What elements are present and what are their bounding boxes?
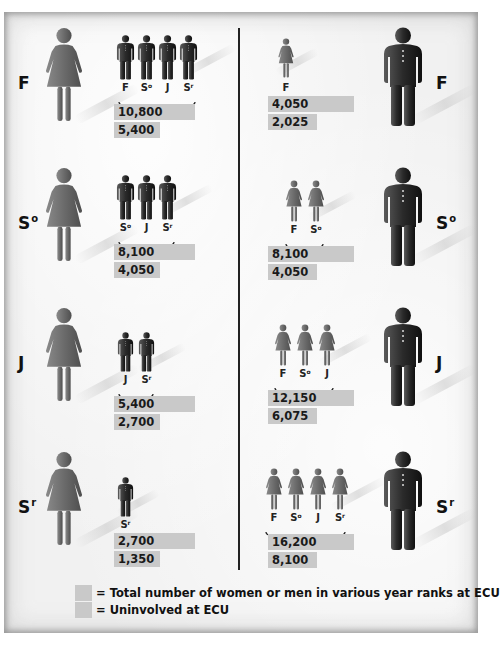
uninvolved-bar-right-3: 8,100 [268,552,317,568]
rank-label-right-3: Sr [436,499,454,516]
figure-group-right-0 [278,36,294,84]
uninvolved-bar-left-2: 2,700 [114,414,160,430]
legend-swatch-uninvolved [75,602,92,618]
man-icon-small [179,35,198,84]
uninvolved-bar-right-1: 4,050 [268,264,317,280]
rank-tag-letter: S [183,82,190,93]
rank-tag-letter: F [283,82,290,93]
rank-tag: Sr [116,519,135,530]
rank-letter: S [436,497,448,517]
rank-tag-letter: S [120,519,127,530]
total-bar-right-2: 12,150 [268,390,354,406]
figure-labels-left-3: Sr [116,519,135,530]
man-icon-small [137,175,156,224]
figure-labels-right-2: FSoJ [272,368,338,379]
figure-group-right-3 [263,468,351,514]
figure-labels-right-1: FSo [283,224,327,235]
figure-group-left-2 [116,332,156,376]
rank-tag-superscript: r [149,374,152,381]
rank-tag: Sr [179,82,198,93]
rank-tag: So [116,222,135,233]
woman-icon-small [305,180,327,226]
rank-superscript: r [31,497,36,508]
rank-tag: F [272,368,294,379]
rank-tag-superscript: r [342,512,345,519]
rank-superscript: r [449,497,454,508]
woman-icon-small [316,324,338,370]
woman-icon-small [285,468,307,514]
man-icon-small [137,35,156,84]
rank-letter: S [436,213,448,233]
woman-icon-small [307,468,329,514]
rank-tag-letter: S [141,82,148,93]
rank-tag-letter: J [316,512,320,523]
rank-label-left-1: So [18,215,38,232]
rank-tag-letter: J [166,82,170,93]
total-bar-left-3: 2,700 [114,533,195,549]
uninvolved-bar-right-0: 2,025 [268,114,317,130]
rank-tag: J [116,374,135,385]
figure-group-left-1 [116,175,177,224]
rank-tag-letter: S [310,224,317,235]
uninvolved-bar-left-3: 1,350 [114,551,160,567]
figure-labels-left-0: FSoJSr [116,82,198,93]
woman-icon-small [263,468,285,514]
woman-icon-small [272,324,294,370]
rank-tag: F [278,82,294,93]
man-icon-small [158,35,177,84]
rank-tag-letter: J [124,374,128,385]
rank-tag-superscript: o [127,222,131,229]
rank-tag-letter: J [325,368,329,379]
rank-letter: F [18,73,30,93]
man-icon-small [137,332,156,376]
man-icon-small [158,175,177,224]
rank-label-right-1: So [436,215,456,232]
legend-label-uninvolved: = Uninvolved at ECU [96,602,229,618]
figure-labels-left-1: SoJSr [116,222,177,233]
rank-tag-superscript: r [191,82,194,89]
figure-group-left-0 [116,35,198,84]
uninvolved-bar-left-1: 4,050 [114,262,160,278]
center-divider [238,28,240,570]
woman-icon-large-0 [44,27,84,122]
man-icon-small [116,332,135,376]
rank-letter: S [18,213,30,233]
woman-icon-large-3 [44,451,84,546]
rank-tag: F [116,82,135,93]
rank-tag: J [316,368,338,379]
rank-tag-letter: S [120,222,127,233]
rank-tag-letter: S [299,368,306,379]
man-icon-large-2 [382,307,424,407]
rank-tag-letter: F [122,82,129,93]
man-icon-small [116,175,135,224]
uninvolved-bar-right-2: 6,075 [268,408,317,424]
woman-icon-small [278,36,294,84]
rank-label-left-3: Sr [18,499,36,516]
rank-tag: Sr [137,374,156,385]
legend-label-total: = Total number of women or men in variou… [96,585,500,601]
legend-swatch-total [75,585,92,601]
rank-tag: J [137,222,156,233]
rank-letter: J [436,353,442,373]
rank-tag: F [263,512,285,523]
rank-tag: So [137,82,156,93]
rank-superscript: o [449,213,456,224]
man-icon-large-0 [382,27,424,127]
total-bar-right-1: 8,100 [268,246,354,262]
uninvolved-bar-left-0: 5,400 [114,122,160,138]
rank-tag-letter: J [145,222,149,233]
rank-label-left-2: J [18,355,24,372]
rank-label-left-0: F [18,75,30,92]
rank-letter: S [18,497,30,517]
figure-group-right-2 [272,324,338,370]
woman-icon-small [294,324,316,370]
figure-group-right-1 [283,180,327,226]
rank-tag-letter: S [141,374,148,385]
woman-icon-large-1 [44,167,84,262]
rank-tag-superscript: o [148,82,152,89]
rank-tag: J [307,512,329,523]
rank-tag: So [294,368,316,379]
rank-tag-superscript: o [318,224,322,231]
rank-superscript: o [31,213,38,224]
rank-tag-superscript: r [170,222,173,229]
